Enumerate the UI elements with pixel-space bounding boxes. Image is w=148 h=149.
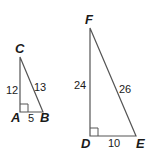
side-label-df: 24 [74, 79, 86, 91]
triangle-def: F D E 24 26 10 [74, 12, 145, 149]
right-angle-marker-a [20, 104, 28, 112]
vertex-label-b: B [40, 110, 49, 125]
side-label-ef: 26 [119, 83, 131, 95]
triangle-abc: C A B 12 13 5 [6, 41, 49, 125]
side-label-ab: 5 [28, 112, 34, 124]
triangle-def-shape [90, 28, 136, 136]
similar-triangles-diagram: C A B 12 13 5 F D E 24 26 10 [0, 0, 148, 149]
side-label-bc: 13 [34, 81, 46, 93]
vertex-label-d: D [81, 136, 91, 149]
vertex-label-e: E [136, 136, 145, 149]
vertex-label-c: C [15, 41, 25, 56]
right-angle-marker-d [90, 128, 98, 136]
side-label-ac: 12 [6, 84, 18, 96]
side-label-de: 10 [108, 137, 120, 149]
vertex-label-a: A [10, 110, 20, 125]
vertex-label-f: F [85, 12, 94, 27]
